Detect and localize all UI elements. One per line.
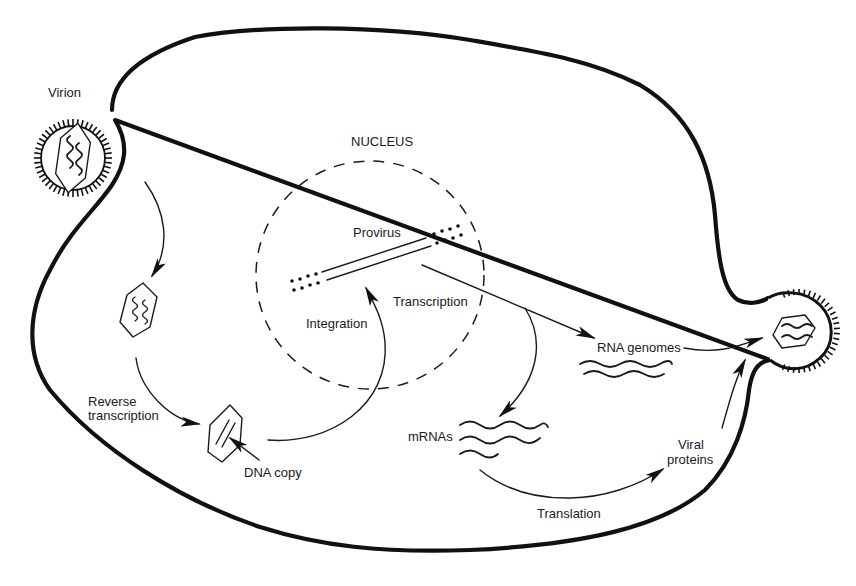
label-translation: Translation: [537, 506, 601, 521]
label-reverse: Reverse: [88, 394, 136, 409]
label-nucleus: NUCLEUS: [351, 134, 413, 149]
retrovirus-lifecycle-diagram: Virion Reverse transcription DNA copy In…: [0, 0, 856, 586]
label-transcription-rt: transcription: [88, 408, 159, 423]
nucleus: [256, 161, 484, 389]
arrow-transcription-mrnas: [500, 308, 536, 416]
arrow-translation: [480, 469, 663, 498]
dna-copy-capsid: [208, 405, 242, 462]
uncoated-capsid: [120, 283, 157, 337]
virion-entering: [34, 119, 112, 197]
label-transcription: Transcription: [393, 294, 468, 309]
budding-virion: [768, 289, 840, 373]
label-proteins: proteins: [667, 452, 714, 467]
mrna-strands: [460, 422, 548, 458]
label-mrnas: mRNAs: [408, 429, 453, 444]
label-integration: Integration: [306, 316, 367, 331]
label-provirus: Provirus: [353, 225, 401, 240]
label-virion: Virion: [48, 85, 81, 100]
label-dna-copy: DNA copy: [244, 465, 302, 480]
rna-genome-strands: [580, 361, 672, 377]
arrow-integration: [268, 288, 385, 440]
label-viral: Viral: [678, 437, 704, 452]
label-rna-genomes: RNA genomes: [597, 340, 681, 355]
arrow-entry: [145, 182, 164, 276]
arrow-proteins-to-budding: [722, 360, 745, 428]
